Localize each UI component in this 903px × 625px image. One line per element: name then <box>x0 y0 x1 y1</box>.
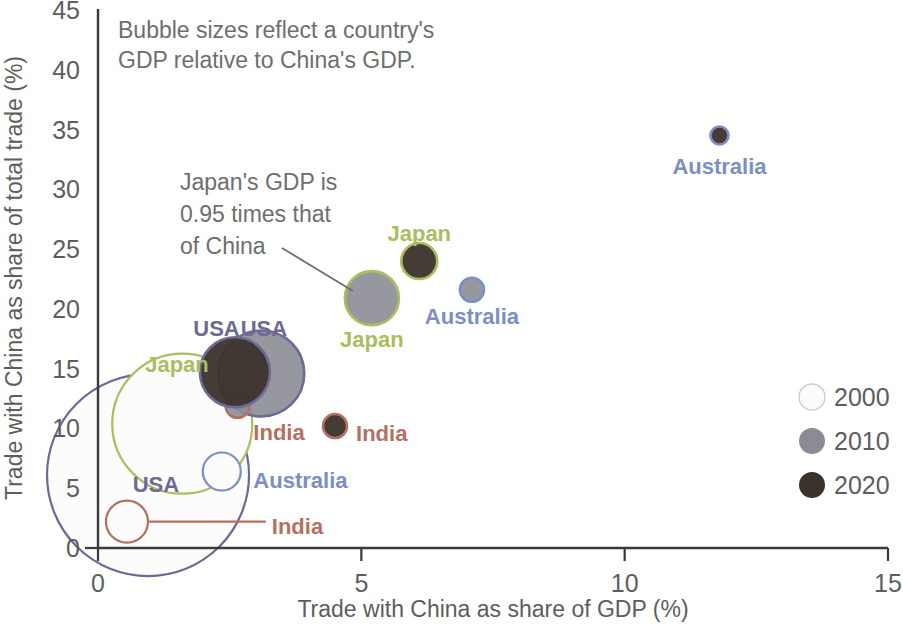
x-axis-title: Trade with China as share of GDP (%) <box>297 596 688 622</box>
legend-swatch-2000[interactable] <box>799 384 825 410</box>
y-axis-tick-label: 30 <box>52 175 80 203</box>
legend-label-2010: 2010 <box>834 427 890 455</box>
bubble-india-2000[interactable] <box>106 501 148 543</box>
bubble-label-usa-2020: USA <box>193 316 240 341</box>
bubble-india-2020[interactable] <box>323 414 347 438</box>
bubble-label-usa-2010: USA <box>241 316 288 341</box>
bubble-size-annotation-line-2: GDP relative to China's GDP. <box>118 47 416 73</box>
y-axis-tick-label: 5 <box>66 474 80 502</box>
legend-label-2020: 2020 <box>834 471 890 499</box>
year-legend: 200020102020 <box>799 383 890 499</box>
bubble-australia-2000[interactable] <box>203 452 241 490</box>
legend-swatch-2010[interactable] <box>799 428 825 454</box>
bubble-japan-2010[interactable] <box>345 271 399 325</box>
japan-gdp-annotation: Japan's GDP is 0.95 times that of China <box>180 169 353 291</box>
y-axis-tick-label: 35 <box>52 116 80 144</box>
bubble-label-japan-2000: Japan <box>145 352 209 377</box>
y-axis-tick-label: 25 <box>52 235 80 263</box>
japan-gdp-annotation-line-1: Japan's GDP is <box>180 169 337 195</box>
bubble-australia-2020[interactable] <box>710 127 728 145</box>
japan-gdp-annotation-line-3: of China <box>180 233 266 259</box>
x-axis-tick-label: 5 <box>354 569 368 597</box>
y-axis-tick-label: 0 <box>66 534 80 562</box>
bubble-label-india-2010: India <box>253 420 305 445</box>
bubble-label-japan-2010: Japan <box>340 327 404 352</box>
bubble-label-usa-2000: USA <box>133 472 180 497</box>
bubble-label-japan-2020: Japan <box>387 221 451 246</box>
x-axis-tick-labels: 051015 <box>91 569 902 597</box>
japan-annotation-leader-line <box>282 248 353 291</box>
bubble-size-annotation: Bubble sizes reflect a country's GDP rel… <box>118 17 434 73</box>
y-axis-tick-label: 40 <box>52 56 80 84</box>
bubble-label-india-2000: India <box>272 514 324 539</box>
y-axis-tick-label: 45 <box>52 0 80 24</box>
chart-canvas: USAJapanAustraliaIndiaUSAJapanAustraliaI… <box>0 0 903 625</box>
bubble-size-annotation-line-1: Bubble sizes reflect a country's <box>118 17 434 43</box>
bubble-chart-figure: USAJapanAustraliaIndiaUSAJapanAustraliaI… <box>0 0 903 625</box>
y-axis-title: Trade with China as share of total trade… <box>1 56 27 500</box>
legend-label-2000: 2000 <box>834 383 890 411</box>
bubble-label-australia-2000: Australia <box>253 468 348 493</box>
bubble-label-australia-2020: Australia <box>672 154 767 179</box>
bubble-usa-2020[interactable] <box>200 337 270 407</box>
bubble-label-australia-2010: Australia <box>425 304 520 329</box>
x-axis-tick-label: 10 <box>611 569 639 597</box>
y-axis-tick-label: 20 <box>52 295 80 323</box>
y-axis-tick-label: 15 <box>52 355 80 383</box>
x-axis-tick-label: 0 <box>91 569 105 597</box>
x-axis-tick-label: 15 <box>874 569 902 597</box>
y-axis-tick-label: 10 <box>52 414 80 442</box>
bubble-australia-2010[interactable] <box>460 278 484 302</box>
legend-swatch-2020[interactable] <box>799 472 825 498</box>
japan-gdp-annotation-line-2: 0.95 times that <box>180 201 331 227</box>
bubble-label-india-2020: India <box>356 421 408 446</box>
bubble-japan-2020[interactable] <box>401 243 437 279</box>
